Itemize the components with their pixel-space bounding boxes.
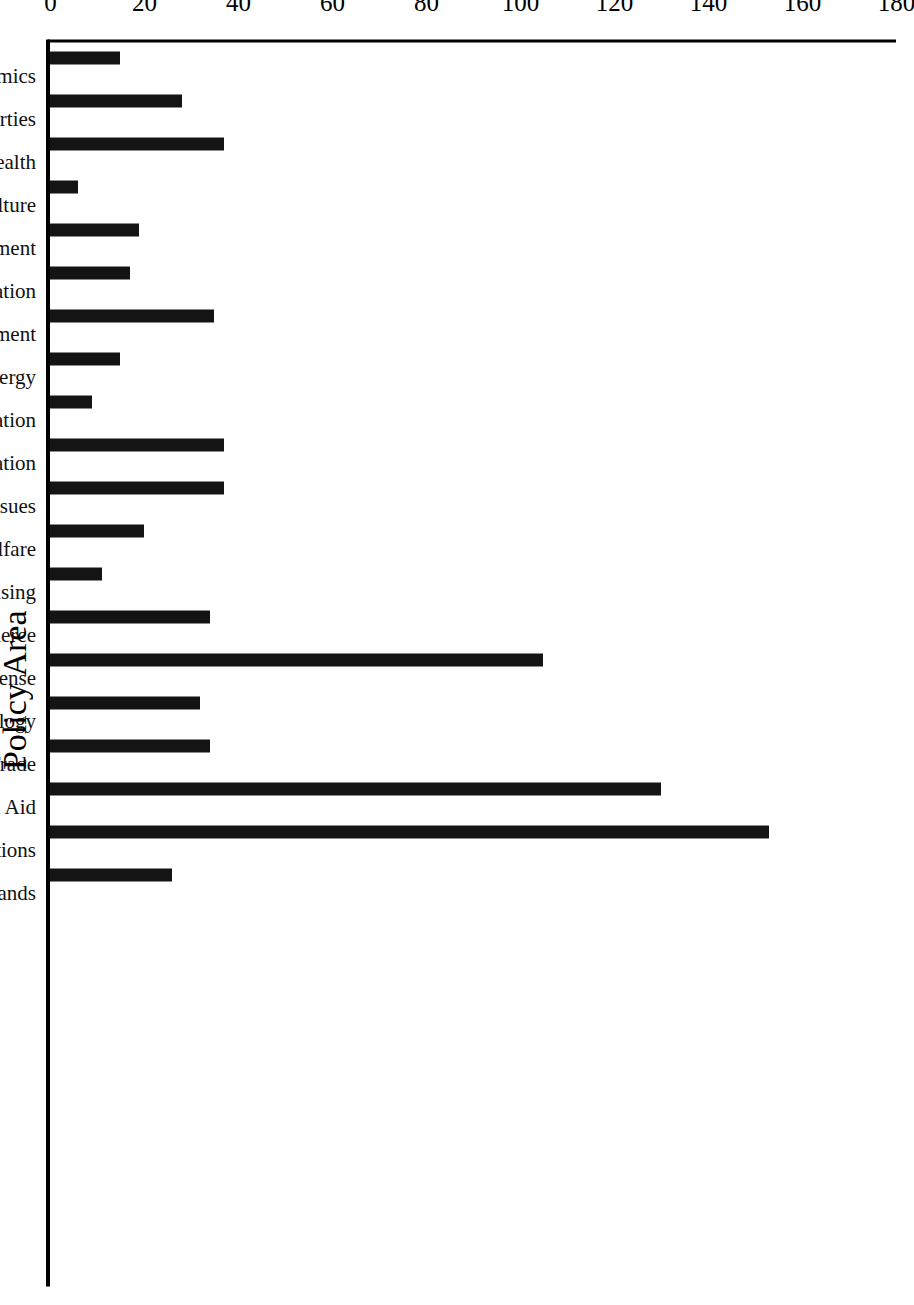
value-tick-label: 80 [404,0,450,15]
value-tick-label: 40 [216,0,262,15]
bar [50,309,215,322]
category-label: Transportation [0,452,36,473]
value-tick-label: 100 [498,0,544,15]
category-label: Labor and Employment [0,237,36,258]
category-label: Community Development & Housing [0,581,36,602]
value-tick-label: 20 [122,0,168,15]
bar [50,352,121,365]
category-label: Civil Rights & Liberties [0,108,36,129]
value-tick-label: 160 [780,0,826,15]
bar [50,395,92,408]
bar [50,137,224,150]
rotated-figure: 020406080100120140160180 MacroeconomicsC… [0,0,914,1305]
category-label: Education [0,280,36,301]
bar [50,567,102,580]
category-label: Macroeconomics [0,65,36,86]
bar [50,739,210,752]
bar-chart-plot: 020406080100120140160180 MacroeconomicsC… [0,0,914,1305]
bar [50,825,769,838]
category-label: Health [0,151,36,172]
bar [50,782,661,795]
category-label: Social Welfare [0,538,36,559]
category-label: Energy [0,366,36,387]
category-label: Law, Crime, & Family Issues [0,495,36,516]
category-label: Immigration [0,409,36,430]
bar [50,51,121,64]
value-tick-label: 60 [310,0,356,15]
value-tick-label: 0 [28,0,74,15]
bar [50,266,130,279]
figure-canvas: 020406080100120140160180 MacroeconomicsC… [0,0,914,1305]
value-tick-label: 140 [686,0,732,15]
category-label: Environment [0,323,36,344]
bar [50,481,224,494]
bar [50,524,144,537]
bar [50,223,139,236]
category-axis-title: Policy Area [0,610,34,770]
category-label: Int'l Affairs & Foreign Aid [0,796,36,817]
bar [50,438,224,451]
bar [50,180,78,193]
bar [50,94,182,107]
bar [50,696,200,709]
value-tick-label: 120 [592,0,638,15]
bar [50,653,544,666]
category-label: Public Lands [0,882,36,903]
bar [50,868,172,881]
category-label: Gov't Operations [0,839,36,860]
category-label: Agriculture [0,194,36,215]
bar [50,610,210,623]
value-axis-line [48,39,896,42]
value-tick-label: 180 [874,0,914,15]
